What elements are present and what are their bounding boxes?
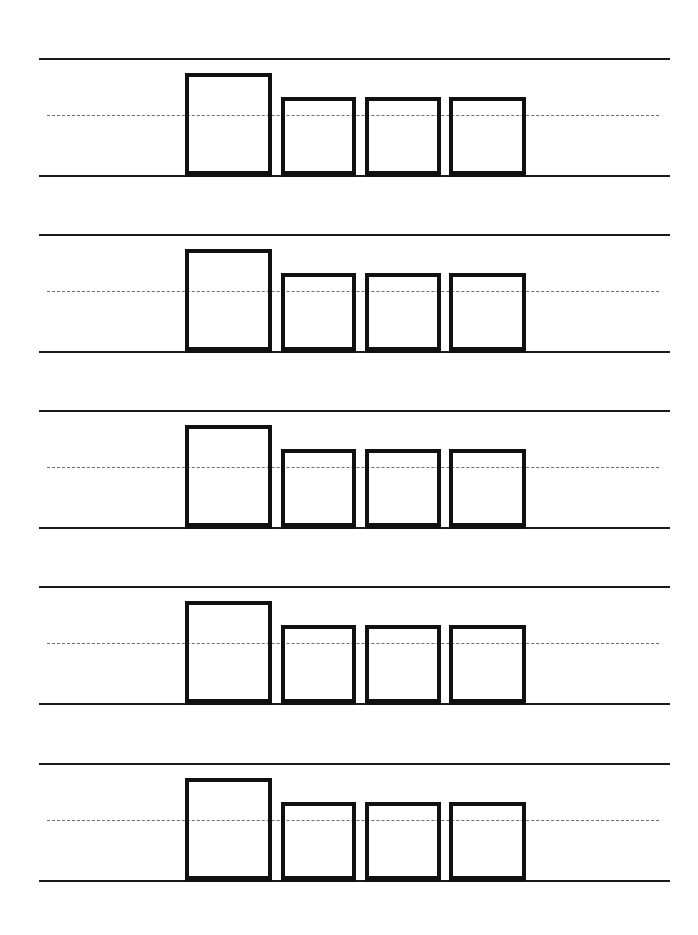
short-letter-box[interactable] <box>365 97 441 177</box>
short-letter-box[interactable] <box>365 625 441 705</box>
short-letter-box[interactable] <box>449 97 526 177</box>
tall-letter-box[interactable] <box>185 249 272 353</box>
top-line <box>39 586 670 588</box>
top-line <box>39 58 670 60</box>
short-letter-box[interactable] <box>281 97 356 177</box>
short-letter-box[interactable] <box>281 449 356 529</box>
short-letter-box[interactable] <box>449 449 526 529</box>
tall-letter-box[interactable] <box>185 601 272 705</box>
practice-row-4 <box>0 586 698 706</box>
short-letter-box[interactable] <box>365 449 441 529</box>
practice-row-5 <box>0 763 698 883</box>
short-letter-box[interactable] <box>449 273 526 353</box>
practice-row-1 <box>0 58 698 178</box>
short-letter-box[interactable] <box>281 802 356 882</box>
short-letter-box[interactable] <box>365 273 441 353</box>
short-letter-box[interactable] <box>365 802 441 882</box>
practice-row-3 <box>0 410 698 530</box>
short-letter-box[interactable] <box>449 625 526 705</box>
short-letter-box[interactable] <box>281 625 356 705</box>
tall-letter-box[interactable] <box>185 73 272 177</box>
top-line <box>39 410 670 412</box>
short-letter-box[interactable] <box>449 802 526 882</box>
top-line <box>39 234 670 236</box>
top-line <box>39 763 670 765</box>
tall-letter-box[interactable] <box>185 778 272 882</box>
tall-letter-box[interactable] <box>185 425 272 529</box>
short-letter-box[interactable] <box>281 273 356 353</box>
practice-row-2 <box>0 234 698 354</box>
